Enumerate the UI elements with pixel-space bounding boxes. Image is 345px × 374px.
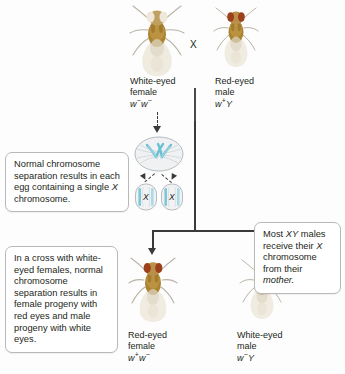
offspring-male-genotype: w−Y [237, 353, 254, 364]
branch-line-female [152, 230, 154, 249]
genetics-cross-figure: White-eyedfemale w−w− X Red-eyedmale [0, 0, 345, 374]
parent-male-fly-image [212, 6, 260, 70]
meiosis-arrowhead [153, 126, 161, 133]
cross-branch-line [152, 230, 262, 232]
callout-cross-outcome: In a cross with white-eyed females, norm… [5, 246, 118, 353]
parent-male-genotype: w+Y [215, 99, 232, 110]
parent-female-fly-image [128, 4, 186, 78]
callout-normal-separation: Normal chromosome separation results in … [5, 152, 129, 212]
callout-xy-males-mother: Most XY males receive their X chromosome… [254, 222, 341, 294]
parent-female-genotype: w−w− [130, 99, 152, 110]
parent-female-label: White-eyedfemale [130, 76, 176, 97]
offspring-female-genotype: w+w− [128, 353, 150, 364]
branch-arrow-female [148, 248, 156, 255]
egg-right-chromosome-label: X [169, 192, 175, 202]
offspring-female-fly-image [127, 256, 179, 324]
offspring-female-label: Red-eyedfemale [128, 330, 167, 351]
dividing-cell-image [134, 136, 184, 176]
parent-separator-line [194, 88, 196, 121]
cross-trunk-line [194, 121, 196, 231]
meiosis-dashed-connector [157, 112, 158, 127]
parent-male-label: Red-eyedmale [215, 76, 254, 97]
meiosis-split-arrow-right [169, 173, 177, 181]
offspring-male-label: White-eyedmale [237, 330, 283, 351]
cross-symbol: X [190, 39, 197, 50]
egg-left-chromosome-label: X [143, 192, 149, 202]
